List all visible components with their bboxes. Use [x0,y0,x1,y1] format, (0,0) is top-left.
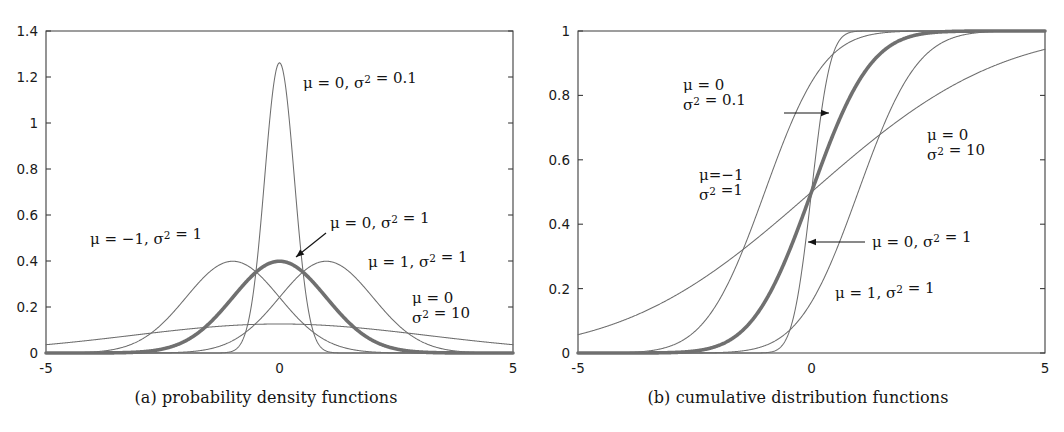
b-annot-standard-text: μ = 0, σ2 = 1 [872,228,972,251]
panel-b-caption: (b) cumulative distribution functions [532,388,1064,407]
y-tick-label: 0.6 [17,207,38,223]
x-tick-label-max: 5 [509,360,518,376]
panel-a-caption: (a) probability density functions [0,388,532,407]
x-tick-label-min: -5 [571,360,584,376]
pdf-plot: 00.20.40.60.811.21.4-550μ = 0, σ2 = 0.1μ… [0,0,532,432]
panel-probability-density-functions: 00.20.40.60.811.21.4-550μ = 0, σ2 = 0.1μ… [0,0,532,432]
a-annot-narrow-text: μ = 0, σ2 = 0.1 [303,69,417,92]
y-tick-label: 1 [29,115,38,131]
y-tick-label: 0.4 [549,216,570,232]
y-tick-label: 1 [561,23,570,39]
a-annot-wide-text: σ2 = 10 [412,304,470,327]
b-annot-wide-text: σ2 = 10 [927,141,985,164]
y-tick-label: 0 [561,345,570,361]
y-tick-label: 0.8 [549,87,570,103]
x-tick-label-zero: 0 [807,360,816,376]
y-tick-label: 1.2 [17,69,38,85]
y-tick-label: 0.2 [549,281,570,297]
y-tick-label: 0.4 [17,253,38,269]
b-annot-mu1-text: μ = 1, σ2 = 1 [835,279,935,302]
x-tick-label-max: 5 [1041,360,1050,376]
panel-cumulative-distribution-functions: 00.20.40.60.81-550μ = 0σ2 = 0.1μ=−1σ2 =1… [532,0,1064,432]
curve-mu-0-sigma2-10 [46,324,513,345]
b-annot-narrow-arrowhead [821,110,829,117]
x-tick-label-zero: 0 [275,360,284,376]
gaussian-distributions-figure: 00.20.40.60.811.21.4-550μ = 0, σ2 = 0.1μ… [0,0,1064,432]
x-tick-label-min: -5 [39,360,52,376]
a-annot-mu-neg1-text: μ = −1, σ2 = 1 [90,225,202,248]
b-annot-standard-arrowhead [808,239,816,246]
y-tick-label: 0 [29,345,38,361]
a-annot-mu1-text: μ = 1, σ2 = 1 [368,248,468,271]
b-annot-narrow-text: σ2 = 0.1 [683,91,746,114]
y-tick-label: 0.8 [17,161,38,177]
cdf-plot: 00.20.40.60.81-550μ = 0σ2 = 0.1μ=−1σ2 =1… [532,0,1064,432]
y-tick-label: 0.2 [17,299,38,315]
y-tick-label: 1.4 [17,23,38,39]
b-annot-mu-neg1-text: σ2 =1 [699,181,743,204]
y-tick-label: 0.6 [549,152,570,168]
a-annot-standard-arrowhead [296,249,304,257]
curve-mu-0-sigma2-10 [578,49,1045,334]
a-annot-standard-text: μ = 0, σ2 = 1 [330,209,430,232]
